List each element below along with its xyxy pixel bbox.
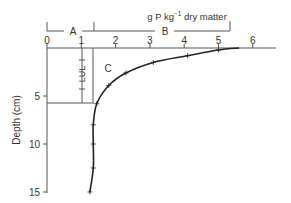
y-axis-label: Depth (cm) [11, 95, 22, 144]
profile-curve [90, 48, 239, 192]
x-tick-label: 5 [216, 35, 222, 46]
y-tick-label: 15 [29, 187, 41, 198]
x-axis-label: g P kg−1 dry matter [147, 10, 227, 22]
region-c-label: C [104, 63, 111, 74]
y-tick-label: 10 [29, 139, 41, 150]
y-ticks: 51015 [29, 91, 47, 198]
y-tick-label: 5 [34, 91, 40, 102]
bracket-a-label: A [70, 26, 77, 37]
x-tick-label: 2 [113, 35, 119, 46]
bracket-b-label: B [162, 26, 169, 37]
x-tick-label: 0 [44, 35, 50, 46]
x-tick-label: 6 [250, 35, 256, 46]
x-tick-label: 3 [147, 35, 153, 46]
x-tick-label: 4 [181, 35, 187, 46]
x-tick-label: 1 [79, 35, 85, 46]
lul-label: LUL [77, 66, 87, 83]
depth-profile-chart: 0123456 51015 g P kg−1 dry matter Depth … [0, 0, 291, 203]
